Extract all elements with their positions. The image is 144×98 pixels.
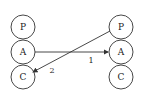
right-node-a-label: A	[117, 47, 125, 57]
right-node-a: A	[109, 40, 133, 64]
right-stack: P A C	[109, 15, 133, 89]
left-node-a: A	[11, 40, 35, 64]
edge-1-label: 1	[88, 56, 93, 65]
left-node-a-label: A	[19, 47, 27, 57]
edge-2-label: 2	[49, 66, 54, 75]
stack-diagram: P A C P A C 1 2	[0, 0, 144, 98]
right-node-c-label: C	[118, 72, 125, 82]
left-node-p-label: P	[20, 22, 26, 32]
left-node-c: C	[11, 65, 35, 89]
right-node-p-label: P	[118, 22, 124, 32]
right-node-c: C	[109, 65, 133, 89]
edge-2: 2	[33, 31, 110, 75]
edge-1: 1	[35, 52, 108, 65]
right-node-p: P	[109, 15, 133, 39]
left-node-p: P	[11, 15, 35, 39]
left-node-c-label: C	[20, 72, 27, 82]
edge-2-arrow	[33, 31, 110, 72]
left-stack: P A C	[11, 15, 35, 89]
